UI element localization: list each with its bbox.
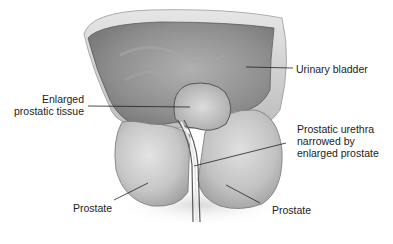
label-line: Prostatic urethra [297, 123, 379, 135]
label-line: Enlarged [12, 93, 84, 105]
label-prostate-left: Prostate [73, 202, 112, 214]
label-urinary-bladder: Urinary bladder [296, 63, 368, 75]
prostate-anatomy-illustration [0, 0, 393, 244]
label-prostate-right: Prostate [272, 204, 311, 216]
label-line: enlarged prostate [297, 147, 379, 159]
label-line: prostatic tissue [12, 105, 84, 117]
label-line: narrowed by [297, 135, 379, 147]
label-enlarged-prostatic-tissue: Enlarged prostatic tissue [12, 93, 84, 117]
label-prostatic-urethra: Prostatic urethra narrowed by enlarged p… [297, 123, 379, 159]
